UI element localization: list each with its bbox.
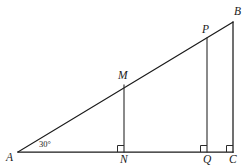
vertex-label-N: N [120, 154, 128, 166]
vertex-label-P: P [202, 24, 209, 36]
geometry-diagram: A B C M N P Q 30° [0, 0, 252, 168]
segment-hypotenuse-AB [18, 22, 233, 152]
right-angle-mark-N [118, 146, 125, 153]
right-angle-mark-Q [201, 146, 208, 153]
vertex-label-B: B [234, 6, 241, 18]
vertex-label-Q: Q [203, 154, 211, 166]
vertex-label-A: A [6, 152, 13, 164]
diagram-canvas [0, 0, 252, 168]
angle-label-A: 30° [39, 140, 51, 149]
right-angle-mark-C [227, 146, 234, 153]
vertex-label-M: M [118, 70, 128, 82]
vertex-label-C: C [229, 154, 237, 166]
